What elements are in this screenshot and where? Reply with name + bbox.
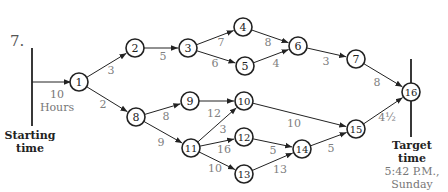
edge-weight-3-4: 7 bbox=[218, 36, 225, 49]
edge-7-16 bbox=[364, 64, 403, 87]
problem-number: 7. bbox=[10, 32, 24, 50]
node-label: 16 bbox=[405, 87, 418, 98]
edge-weight-15-16: 4½ bbox=[378, 111, 396, 124]
node-label: 7 bbox=[353, 53, 360, 66]
edge-weight-5-6: 4 bbox=[273, 57, 280, 70]
node-9: 9 bbox=[181, 92, 199, 110]
nodes-layer: 12345678910111213141516 bbox=[70, 18, 420, 183]
starting-time-label-line2: time bbox=[2, 142, 58, 155]
node-16: 16 bbox=[402, 83, 420, 101]
node-12: 12 bbox=[235, 128, 253, 146]
edge-3-4 bbox=[196, 31, 233, 45]
node-3: 3 bbox=[179, 39, 197, 57]
edge-weight-8-9: 8 bbox=[163, 110, 170, 123]
node-8: 8 bbox=[127, 108, 145, 126]
network-diagram: 3257684388912316101051354½ 1234567891011… bbox=[0, 0, 448, 192]
start-duration-value: 10 bbox=[32, 88, 82, 101]
node-label: 13 bbox=[238, 169, 251, 180]
node-label: 14 bbox=[296, 144, 309, 155]
target-time-value: 5:42 P.M., bbox=[383, 165, 441, 178]
edge-weight-11-10: 3 bbox=[220, 123, 227, 136]
node-13: 13 bbox=[235, 165, 253, 183]
target-day-value: Sunday bbox=[383, 178, 441, 191]
node-label: 8 bbox=[133, 111, 140, 124]
edge-weight-12-14: 5 bbox=[270, 144, 277, 157]
target-time-label-line1: Target bbox=[383, 139, 441, 152]
node-7: 7 bbox=[347, 50, 365, 68]
start-duration: 10 Hours bbox=[32, 88, 82, 114]
node-10: 10 bbox=[235, 92, 253, 110]
target-time-label: Target time 5:42 P.M., Sunday bbox=[383, 139, 441, 191]
node-label: 10 bbox=[238, 96, 251, 107]
edge-weight-7-16: 8 bbox=[374, 76, 381, 89]
node-label: 4 bbox=[240, 21, 247, 34]
node-label: 11 bbox=[185, 143, 198, 154]
node-label: 5 bbox=[242, 60, 249, 73]
node-label: 12 bbox=[238, 132, 251, 143]
edge-weight-4-6: 8 bbox=[265, 36, 272, 49]
node-4: 4 bbox=[234, 18, 252, 36]
node-11: 11 bbox=[182, 139, 200, 157]
edge-1-8 bbox=[87, 87, 128, 112]
starting-time-label-line1: Starting bbox=[2, 129, 58, 142]
node-label: 3 bbox=[185, 42, 192, 55]
edge-weight-1-8: 2 bbox=[100, 98, 107, 111]
edge-weight-11-13: 10 bbox=[208, 162, 222, 175]
node-label: 6 bbox=[295, 40, 302, 53]
starting-time-label: Starting time bbox=[2, 129, 58, 155]
edge-weight-8-11: 9 bbox=[158, 136, 165, 149]
node-label: 2 bbox=[132, 42, 139, 55]
edge-weight-3-5: 6 bbox=[212, 57, 219, 70]
node-15: 15 bbox=[347, 120, 365, 138]
node-2: 2 bbox=[126, 39, 144, 57]
node-label: 9 bbox=[187, 95, 194, 108]
edge-weight-2-3: 5 bbox=[160, 50, 167, 63]
edge-weight-11-12: 16 bbox=[217, 143, 231, 156]
edge-weight-6-7: 3 bbox=[323, 55, 330, 68]
start-duration-unit: Hours bbox=[32, 101, 82, 114]
node-5: 5 bbox=[236, 57, 254, 75]
node-14: 14 bbox=[293, 140, 311, 158]
node-label: 15 bbox=[350, 124, 363, 135]
edge-5-6 bbox=[253, 50, 288, 63]
target-time-label-line2: time bbox=[383, 152, 441, 165]
node-6: 6 bbox=[289, 37, 307, 55]
edge-weight-1-2: 3 bbox=[108, 64, 115, 77]
edge-weight-9-10: 12 bbox=[207, 107, 221, 120]
edge-weight-10-15: 10 bbox=[287, 117, 301, 130]
edge-weight-14-15: 5 bbox=[328, 142, 335, 155]
edge-weight-13-14: 13 bbox=[273, 163, 287, 176]
